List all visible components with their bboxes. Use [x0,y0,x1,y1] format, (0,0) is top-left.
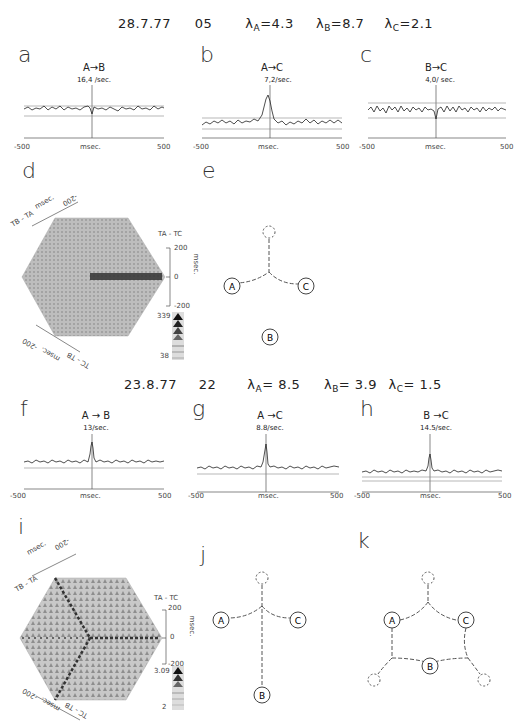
plot-g-title: A →C [248,410,292,421]
connectivity-diagram-j: A C B [210,570,320,710]
node-c: C [303,282,309,292]
hexmap-i-tick-ab: -200 [53,537,71,552]
plot-g-xlabel: msec. [258,492,279,500]
lambda-a-2: λA= 8.5 [247,377,319,394]
node-a: A [389,616,396,626]
plot-h-rate: 14.5/sec. [412,424,460,432]
plot-g-xmin: -500 [188,492,204,500]
plot-a-xmin: -500 [14,143,30,151]
panel-letter-d: d [22,160,36,182]
correlogram-g [195,434,345,494]
date-2: 23.8.77 [124,377,182,392]
hexmap-i-tick-ac-max: 200 [168,604,181,612]
panel-letter-i: i [18,516,24,538]
scale-d-min: 38 [160,352,169,360]
lambda-b-2: λB= 3.9 [324,377,384,394]
node-a: A [229,282,236,292]
lambda-c-1: λC=2.1 [385,16,434,33]
correlogram-b [200,85,345,145]
correlogram-a [20,85,170,145]
node-b: B [259,691,265,701]
hexmap-i-tick-ac-zero: 0 [170,633,174,641]
hexmap-d-tick-ac-min: -200 [174,302,190,310]
panel-letter-c: c [360,44,372,66]
plot-g-rate: 8.8/sec. [248,424,292,432]
node-b: B [427,662,433,672]
plot-h-xlabel: msec. [420,492,441,500]
plot-c-rate: 4,0/ sec. [418,76,462,84]
plot-b-xlabel: msec. [258,143,279,151]
lambda-c-2: λC= 1.5 [389,377,442,394]
lambda-a-1: λA=4.3 [245,16,311,33]
correlogram-f [20,434,170,494]
plot-f-rate: 13/sec. [78,424,114,432]
panel-letter-f: f [20,398,28,420]
plot-b-xmin: -500 [193,143,209,151]
plot-f-xmin: -500 [10,492,26,500]
panel-letter-a: a [18,44,31,66]
plot-g-xmax: 500 [330,492,343,500]
hexmap-d-tick-ac-max: 200 [174,244,187,252]
hexmap-i-axis-ac: TA - TC [154,594,178,602]
panel-letter-b: b [200,44,214,66]
scale-bar-i [172,666,186,712]
plot-a-rate: 16,4 /sec. [72,76,116,84]
plot-b-xmax: 500 [336,143,349,151]
plot-a-xlabel: msec. [80,143,101,151]
record-id-2: 22 [199,377,243,392]
plot-c-xmax: 500 [500,143,513,151]
hexmap-d-unit: msec. [192,254,200,275]
connectivity-diagram-k: A C B [370,570,510,710]
panel-letter-g: g [192,398,205,420]
node-b: B [267,333,273,343]
node-c: C [463,616,469,626]
scale-i-min: 2 [162,703,166,711]
record-id-1: 05 [195,16,241,31]
plot-b-rate: 7,2/sec. [256,76,300,84]
plot-a-title: A→B [72,62,116,73]
plot-f-xmax: 500 [158,492,171,500]
plot-b-title: A→C [250,62,294,73]
node-c: C [295,616,301,626]
plot-h-title: B →C [414,410,458,421]
plot-f-title: A → B [74,410,118,421]
plot-h-xmax: 500 [498,492,511,500]
hexmap-i-unit: msec. [188,616,196,637]
scale-i-max: 3.09 [154,667,170,675]
panel-letter-k: k [357,530,370,552]
correlogram-h [360,434,510,494]
scale-d-max: 339 [157,312,170,320]
plot-h-xmin: -500 [354,492,370,500]
header-set1: 28.7.77 05 λA=4.3 λB=8.7 λC=2.1 [118,16,433,33]
hexmap-d-axis-ac: TA - TC [158,230,182,238]
connectivity-diagram-e: A C B [210,220,330,350]
hexmap-i-unit-ab: msec. [25,539,47,556]
panel-letter-j: j [200,544,206,566]
correlogram-c [366,85,511,145]
plot-f-xlabel: msec. [80,492,101,500]
panel-letter-h: h [360,398,374,420]
plot-a-xmax: 500 [157,143,170,151]
node-a: A [218,616,225,626]
date-1: 28.7.77 [118,16,178,31]
hexmap-d-tick-ac-zero: 0 [174,273,178,281]
panel-letter-e: e [202,160,216,182]
header-set2: 23.8.77 22 λA= 8.5 λB= 3.9 λC= 1.5 [124,377,442,394]
plot-c-xlabel: msec. [425,143,446,151]
lambda-b-1: λB=8.7 [316,16,380,33]
plot-c-xmin: -500 [359,143,375,151]
scale-bar-d [172,312,186,362]
plot-c-title: B→C [414,62,458,73]
